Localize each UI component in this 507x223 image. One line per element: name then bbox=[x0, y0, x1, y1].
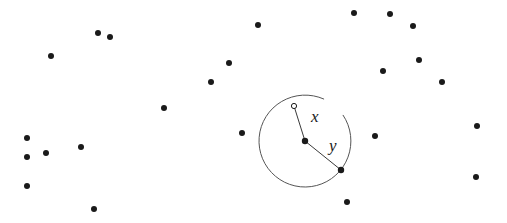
scatter-point bbox=[43, 150, 49, 156]
label-y: y bbox=[327, 136, 337, 155]
scatter-point bbox=[473, 174, 479, 180]
scatter-point bbox=[372, 133, 378, 139]
scatter-point bbox=[24, 154, 30, 160]
scatter-point bbox=[107, 34, 113, 40]
scatter-point bbox=[380, 68, 386, 74]
scatter-point bbox=[410, 23, 416, 29]
centre-point bbox=[302, 138, 308, 144]
scatter-point bbox=[161, 105, 167, 111]
scatter-point bbox=[387, 11, 393, 17]
scatter-point bbox=[226, 60, 232, 66]
scatter-point bbox=[344, 199, 350, 205]
open-point bbox=[291, 103, 296, 108]
scatter-point bbox=[24, 183, 30, 189]
scatter-point bbox=[78, 144, 84, 150]
scatter-point bbox=[416, 57, 422, 63]
figure-canvas: xy bbox=[0, 0, 507, 223]
scatter-point bbox=[91, 206, 97, 212]
scatter-point bbox=[208, 79, 214, 85]
scatter-point bbox=[95, 30, 101, 36]
scatter-point bbox=[24, 135, 30, 141]
scatter-point bbox=[255, 22, 261, 28]
figure-background bbox=[0, 0, 507, 223]
point-process-figure: xy bbox=[0, 0, 507, 223]
scatter-point bbox=[439, 79, 445, 85]
boundary-point bbox=[338, 167, 344, 173]
label-x: x bbox=[310, 107, 319, 126]
scatter-point bbox=[48, 53, 54, 59]
scatter-point bbox=[351, 10, 357, 16]
scatter-point bbox=[239, 130, 245, 136]
scatter-point bbox=[474, 123, 480, 129]
